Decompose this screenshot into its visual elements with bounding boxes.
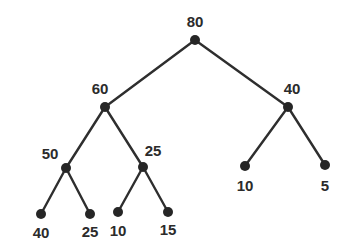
tree-node-label: 60 <box>92 81 109 96</box>
node-layer <box>36 35 330 219</box>
tree-node-dot <box>100 102 110 112</box>
tree-edge <box>66 107 105 168</box>
edge-layer <box>41 40 325 214</box>
tree-node-label: 25 <box>82 224 99 239</box>
tree-node-dot <box>85 209 95 219</box>
tree-node-label: 15 <box>160 222 177 237</box>
tree-node-dot <box>61 163 71 173</box>
tree-node-label: 25 <box>145 143 162 158</box>
tree-edge <box>245 107 288 166</box>
tree-node-label: 40 <box>33 225 50 240</box>
tree-node-label: 50 <box>42 146 59 161</box>
tree-node-label: 10 <box>237 178 254 193</box>
tree-node-label: 80 <box>187 14 204 29</box>
tree-node-dot <box>36 209 46 219</box>
tree-node-dot <box>283 102 293 112</box>
tree-node-dot <box>138 162 148 172</box>
tree-node-dot <box>163 207 173 217</box>
tree-edge <box>288 107 325 165</box>
tree-node-label: 10 <box>110 223 127 238</box>
tree-edge <box>195 40 288 107</box>
tree-node-label: 40 <box>284 81 301 96</box>
tree-node-dot <box>113 207 123 217</box>
tree-edge <box>118 167 143 212</box>
tree-node-label: 5 <box>321 178 329 193</box>
tree-edge <box>105 40 195 107</box>
tree-node-dot <box>320 160 330 170</box>
tree-edge <box>143 167 168 212</box>
tree-edge <box>105 107 143 167</box>
binary-tree-diagram: 806040502510540251015 <box>0 0 349 245</box>
tree-node-dot <box>190 35 200 45</box>
tree-canvas <box>0 0 349 245</box>
tree-edge <box>66 168 90 214</box>
tree-edge <box>41 168 66 214</box>
tree-node-dot <box>240 161 250 171</box>
